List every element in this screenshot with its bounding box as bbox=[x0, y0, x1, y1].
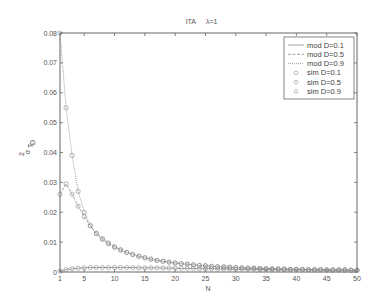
x-tick-label: 35 bbox=[262, 275, 270, 282]
legend-label: mod D=0.9 bbox=[307, 59, 344, 68]
chart-title-right: λ=1 bbox=[206, 18, 218, 25]
x-axis-label: N bbox=[205, 285, 210, 292]
y-tick-label: 0.05 bbox=[43, 119, 57, 126]
x-tick-label: 45 bbox=[323, 275, 331, 282]
y-tick-label: 0.07 bbox=[43, 59, 57, 66]
x-tick-label: 1 bbox=[58, 275, 62, 282]
sim-marker bbox=[82, 210, 86, 214]
x-tick-label: 15 bbox=[141, 275, 149, 282]
y-tick-label: 0.02 bbox=[43, 209, 57, 216]
x-tick-label: 20 bbox=[171, 275, 179, 282]
y-axis-label: σ2TD bbox=[18, 140, 36, 156]
y-tick-label: 0.04 bbox=[43, 149, 57, 156]
legend-label: mod D=0.1 bbox=[307, 41, 344, 50]
x-tick-label: 30 bbox=[232, 275, 240, 282]
y-tick-label: 0.01 bbox=[43, 239, 57, 246]
y-label-subsub: D bbox=[29, 140, 36, 145]
legend-label: sim D=0.9 bbox=[307, 87, 341, 96]
legend-label: mod D=0.5 bbox=[307, 50, 344, 59]
x-tick-label: 50 bbox=[353, 275, 361, 282]
chart: 1510152025303540455000.010.020.030.040.0… bbox=[0, 0, 377, 306]
model-line-D=0.5 bbox=[60, 184, 357, 270]
y-label-sigma: σ bbox=[24, 149, 31, 154]
x-tick-label: 40 bbox=[292, 275, 300, 282]
plot-area: 1510152025303540455000.010.020.030.040.0… bbox=[18, 18, 361, 292]
chart-title-left: ITA bbox=[186, 18, 197, 25]
y-tick-label: 0.08 bbox=[43, 30, 57, 37]
y-label-sup: 2 bbox=[18, 152, 25, 156]
y-tick-label: 0 bbox=[53, 269, 57, 276]
x-tick-label: 10 bbox=[111, 275, 119, 282]
legend-label: sim D=0.5 bbox=[307, 78, 341, 87]
x-tick-label: 25 bbox=[202, 275, 210, 282]
y-tick-label: 0.06 bbox=[43, 89, 57, 96]
legend: mod D=0.1mod D=0.5mod D=0.9sim D=0.1sim … bbox=[284, 37, 354, 99]
sim-marker bbox=[64, 182, 68, 186]
legend-label: sim D=0.1 bbox=[307, 68, 341, 77]
y-tick-label: 0.03 bbox=[43, 179, 57, 186]
x-tick-label: 5 bbox=[82, 275, 86, 282]
